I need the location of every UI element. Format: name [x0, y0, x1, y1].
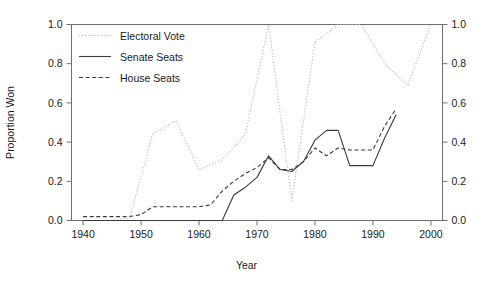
x-tick-label: 1950	[129, 228, 153, 240]
legend-label-senate-seats: Senate Seats	[120, 51, 183, 63]
y-tick-label-right: 0.0	[452, 214, 467, 226]
y-tick-label-left: 0.0	[48, 214, 63, 226]
y-tick-label-left: 0.8	[48, 57, 63, 69]
y-axis-title: Proportion Won	[4, 86, 16, 159]
y-tick-label-left: 1.0	[48, 18, 63, 30]
x-tick-label: 1990	[361, 228, 385, 240]
chart-background	[0, 0, 493, 282]
x-tick-label: 1980	[303, 228, 327, 240]
y-tick-label-right: 0.4	[452, 136, 467, 148]
x-tick-label: 1970	[245, 228, 269, 240]
y-tick-label-left: 0.4	[48, 136, 63, 148]
y-tick-label-left: 0.2	[48, 175, 63, 187]
x-tick-label: 1960	[187, 228, 211, 240]
y-tick-label-right: 1.0	[452, 18, 467, 30]
x-tick-label: 1940	[71, 228, 95, 240]
chart-root: 0.00.20.40.60.81.0 0.00.20.40.60.81.0 19…	[0, 0, 493, 282]
legend-label-electoral-vote: Electoral Vote	[120, 30, 185, 42]
line-chart: 0.00.20.40.60.81.0 0.00.20.40.60.81.0 19…	[0, 0, 493, 282]
y-tick-label-right: 0.6	[452, 97, 467, 109]
legend-label-house-seats: House Seats	[120, 72, 180, 84]
y-tick-label-left: 0.6	[48, 97, 63, 109]
y-tick-label-right: 0.2	[452, 175, 467, 187]
x-axis-title: Year	[236, 259, 258, 271]
y-tick-label-right: 0.8	[452, 57, 467, 69]
x-tick-label: 2000	[419, 228, 443, 240]
